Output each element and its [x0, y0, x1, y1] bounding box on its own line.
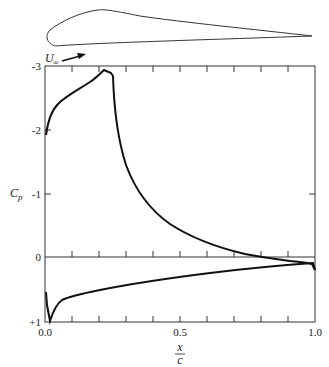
y-tick-labels: -3 -2 -1 0 +1	[29, 60, 41, 328]
x-tick-labels: 0.0 0.5 1.0	[38, 326, 322, 338]
svg-text:c: c	[177, 353, 183, 367]
svg-text:1.0: 1.0	[308, 326, 322, 338]
bottom-ticks	[72, 316, 288, 322]
y-ticks	[45, 130, 315, 194]
svg-text:0: 0	[36, 251, 42, 263]
plot-frame	[45, 66, 315, 322]
upper-surface-curve	[46, 70, 315, 270]
freestream-label: U ∞	[45, 51, 59, 67]
svg-text:p: p	[17, 192, 23, 202]
freestream-arrow-icon	[62, 53, 86, 61]
svg-text:-1: -1	[32, 188, 41, 200]
svg-text:-2: -2	[32, 124, 41, 136]
y-axis-label: C p	[10, 186, 23, 202]
svg-text:0.0: 0.0	[38, 326, 52, 338]
lower-surface-curve	[46, 263, 315, 321]
svg-text:x: x	[176, 340, 183, 354]
svg-text:0.5: 0.5	[173, 326, 187, 338]
airfoil-profile	[47, 10, 312, 46]
cp-distribution-figure: U ∞ -3 -2 -1 0	[0, 0, 329, 367]
x-axis-label: x c	[175, 340, 185, 367]
svg-text:-3: -3	[32, 60, 42, 72]
